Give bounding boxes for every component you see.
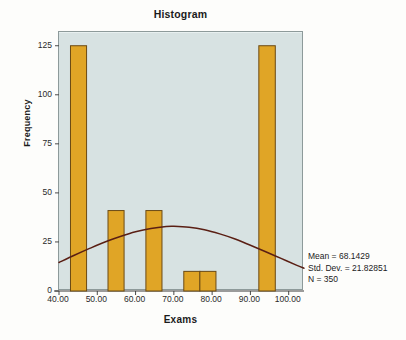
y-tick-label: 100 [12,89,52,99]
x-axis-title: Exams [58,314,303,325]
y-tick-label: 25 [12,236,52,246]
y-axis-tick-labels: 0255075100125 [10,31,52,290]
mean-stat: Mean = 68.1429 [308,251,387,263]
histogram-bar [70,46,86,291]
y-tick-label: 50 [12,187,52,197]
plot-svg [58,31,305,292]
histogram-bar [200,271,216,291]
plot-area [58,31,303,290]
histogram-bar [184,271,200,291]
x-axis-tick-labels: 40.0050.0060.0070.0080.0090.00100.00 [58,294,303,308]
page-title: Histogram [58,8,303,20]
x-tick-label: 100.00 [265,294,311,304]
std-dev-stat: Std. Dev. = 21.82851 [308,263,387,275]
histogram-figure: Histogram Frequency 0255075100125 40.005… [0,0,406,340]
n-stat: N = 350 [308,274,387,286]
statistics-annotation: Mean = 68.1429 Std. Dev. = 21.82851 N = … [308,251,387,286]
y-tick-label: 75 [12,138,52,148]
histogram-bar [146,211,162,291]
histogram-bar [108,211,124,291]
histogram-bars-group [70,46,275,291]
y-tick-label: 125 [12,40,52,50]
